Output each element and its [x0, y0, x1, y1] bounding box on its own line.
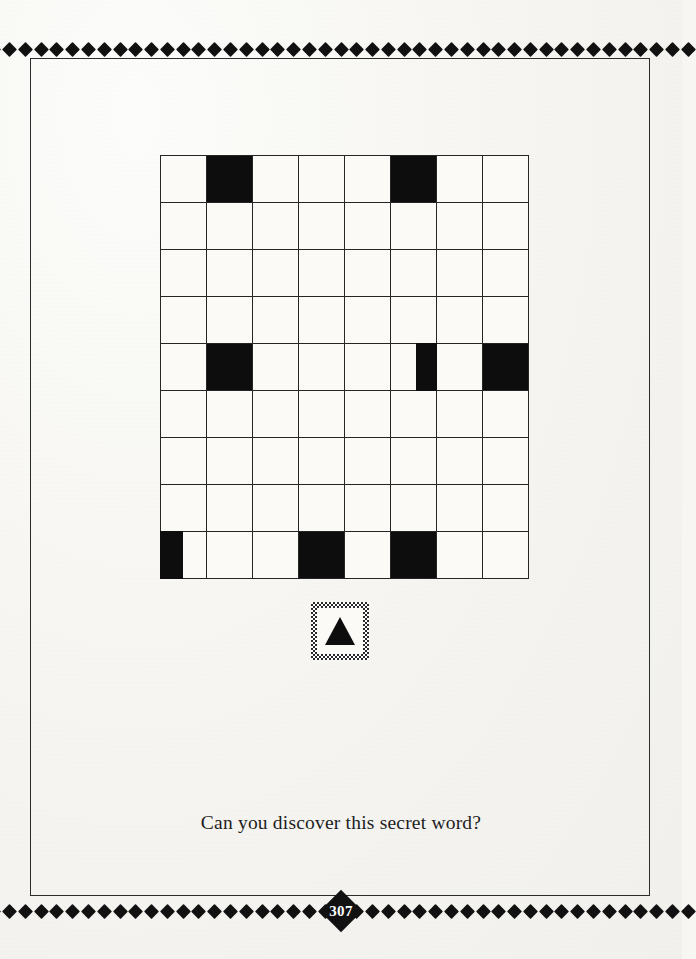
puzzle-cell[interactable]: [483, 250, 529, 297]
diamond-icon: [428, 41, 443, 56]
diamond-icon: [144, 903, 159, 918]
puzzle-cell[interactable]: [253, 297, 299, 344]
puzzle-cell[interactable]: [437, 391, 483, 438]
puzzle-cell[interactable]: [207, 297, 253, 344]
puzzle-cell[interactable]: [161, 344, 207, 391]
puzzle-cell[interactable]: [161, 438, 207, 485]
diamond-icon: [507, 41, 522, 56]
puzzle-cell[interactable]: [345, 297, 391, 344]
puzzle-cell[interactable]: [253, 156, 299, 203]
puzzle-cell[interactable]: [207, 485, 253, 532]
diamond-icon: [97, 41, 112, 56]
diamond-icon: [2, 903, 17, 918]
top-diamond-border: [0, 38, 682, 60]
diamond-icon: [113, 903, 128, 918]
puzzle-cell[interactable]: [207, 438, 253, 485]
diamond-icon: [18, 903, 33, 918]
puzzle-cell[interactable]: [437, 344, 483, 391]
puzzle-cell[interactable]: [253, 485, 299, 532]
puzzle-cell[interactable]: [299, 532, 345, 579]
diamond-icon: [444, 903, 459, 918]
puzzle-cell[interactable]: [345, 250, 391, 297]
puzzle-cell[interactable]: [253, 250, 299, 297]
puzzle-cell[interactable]: [391, 344, 437, 391]
puzzle-cell[interactable]: [345, 485, 391, 532]
puzzle-cell[interactable]: [253, 203, 299, 250]
diamond-icon: [34, 41, 49, 56]
diamond-icon: [223, 903, 238, 918]
puzzle-cell[interactable]: [299, 156, 345, 203]
puzzle-cell[interactable]: [437, 297, 483, 344]
puzzle-cell[interactable]: [345, 532, 391, 579]
puzzle-grid-row: [161, 203, 529, 250]
puzzle-cell[interactable]: [345, 391, 391, 438]
puzzle-cell[interactable]: [391, 156, 437, 203]
puzzle-cell[interactable]: [207, 156, 253, 203]
diamond-icon: [81, 903, 96, 918]
puzzle-cell[interactable]: [253, 391, 299, 438]
puzzle-cell[interactable]: [299, 438, 345, 485]
puzzle-cell[interactable]: [391, 438, 437, 485]
puzzle-cell[interactable]: [345, 438, 391, 485]
puzzle-cell[interactable]: [483, 344, 529, 391]
puzzle-cell[interactable]: [391, 532, 437, 579]
puzzle-cell[interactable]: [483, 485, 529, 532]
puzzle-cell[interactable]: [161, 532, 207, 579]
diamond-icon: [144, 41, 159, 56]
diamond-icon: [633, 903, 648, 918]
puzzle-cell[interactable]: [299, 485, 345, 532]
puzzle-cell[interactable]: [391, 203, 437, 250]
puzzle-cell[interactable]: [161, 156, 207, 203]
puzzle-grid[interactable]: [160, 155, 529, 579]
diamond-icon: [570, 41, 585, 56]
diamond-icon: [349, 41, 364, 56]
puzzle-cell[interactable]: [391, 485, 437, 532]
diamond-icon: [649, 903, 664, 918]
puzzle-cell[interactable]: [299, 297, 345, 344]
puzzle-cell[interactable]: [483, 438, 529, 485]
puzzle-cell[interactable]: [391, 297, 437, 344]
puzzle-cell[interactable]: [483, 297, 529, 344]
diamond-icon: [191, 903, 206, 918]
puzzle-cell[interactable]: [345, 156, 391, 203]
puzzle-cell[interactable]: [391, 250, 437, 297]
puzzle-cell[interactable]: [483, 391, 529, 438]
puzzle-cell[interactable]: [437, 203, 483, 250]
puzzle-cell[interactable]: [345, 203, 391, 250]
puzzle-cell[interactable]: [207, 532, 253, 579]
puzzle-cell[interactable]: [483, 532, 529, 579]
puzzle-cell[interactable]: [207, 391, 253, 438]
puzzle-cell[interactable]: [161, 250, 207, 297]
puzzle-cell[interactable]: [483, 156, 529, 203]
diamond-icon: [554, 41, 569, 56]
puzzle-cell[interactable]: [437, 485, 483, 532]
diamond-icon: [523, 903, 538, 918]
puzzle-cell[interactable]: [299, 344, 345, 391]
puzzle-cell[interactable]: [207, 250, 253, 297]
puzzle-cell[interactable]: [253, 532, 299, 579]
puzzle-cell[interactable]: [161, 485, 207, 532]
puzzle-cell[interactable]: [161, 203, 207, 250]
puzzle-cell[interactable]: [437, 156, 483, 203]
puzzle-cell[interactable]: [253, 344, 299, 391]
diamond-icon: [2, 41, 17, 56]
puzzle-cell[interactable]: [437, 532, 483, 579]
puzzle-cell[interactable]: [299, 203, 345, 250]
puzzle-cell[interactable]: [207, 344, 253, 391]
diamond-icon: [302, 41, 317, 56]
diamond-icon: [160, 903, 175, 918]
puzzle-cell[interactable]: [299, 250, 345, 297]
diamond-icon: [554, 903, 569, 918]
puzzle-cell[interactable]: [253, 438, 299, 485]
puzzle-cell[interactable]: [437, 250, 483, 297]
caption-text: Can you discover this secret word?: [0, 812, 682, 834]
puzzle-cell[interactable]: [299, 391, 345, 438]
diamond-icon: [191, 41, 206, 56]
puzzle-cell[interactable]: [483, 203, 529, 250]
puzzle-cell[interactable]: [161, 391, 207, 438]
puzzle-cell[interactable]: [391, 391, 437, 438]
puzzle-cell[interactable]: [207, 203, 253, 250]
puzzle-cell[interactable]: [161, 297, 207, 344]
puzzle-cell[interactable]: [437, 438, 483, 485]
puzzle-cell[interactable]: [345, 344, 391, 391]
